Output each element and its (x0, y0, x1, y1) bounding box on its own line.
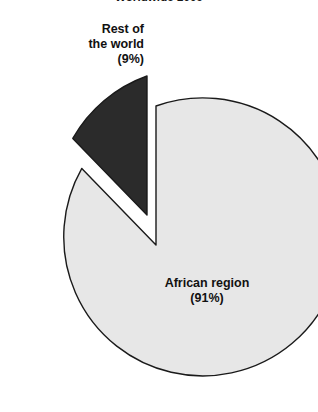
pie-chart-figure: Worldwide 2009 Rest of the world (9%) Af… (0, 0, 318, 412)
pie-label-african-region-line1: African region (140, 276, 274, 291)
pie-label-rest-of-world-line1: Rest of (18, 22, 144, 37)
pie-label-african-region-line2: (91%) (140, 291, 274, 306)
pie-label-rest-of-world-line3: (9%) (18, 52, 144, 67)
pie-label-african-region: African region (91%) (140, 276, 274, 306)
pie-label-rest-of-world: Rest of the world (9%) (18, 22, 144, 67)
pie-label-rest-of-world-line2: the world (18, 37, 144, 52)
